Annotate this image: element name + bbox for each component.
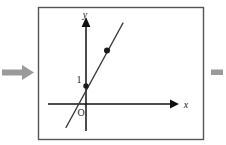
coordinate-plane-figure: y x 1 O: [0, 0, 226, 145]
right-dash-marker: [211, 70, 223, 76]
math-figure: y x 1 O: [0, 0, 226, 145]
y-axis-label: y: [82, 9, 88, 20]
data-point-upper: [104, 48, 110, 54]
x-axis-label: x: [183, 99, 189, 110]
y-axis-tick-label-1: 1: [77, 74, 82, 85]
origin-label: O: [77, 107, 84, 118]
data-point-y-intercept: [83, 83, 88, 88]
